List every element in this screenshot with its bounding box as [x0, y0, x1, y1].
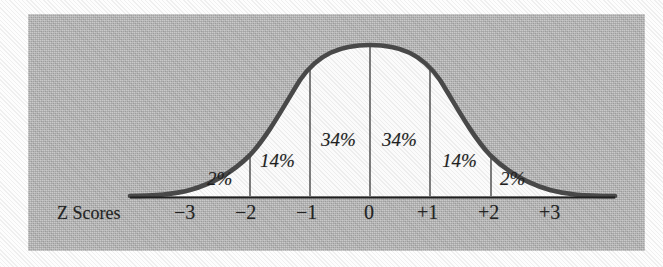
x-tick-label-neg3: −3: [174, 201, 195, 224]
region-label-34pct-left: 34%: [321, 129, 356, 151]
x-tick-label-neg2: −2: [235, 201, 256, 224]
axis-title-z-scores: Z Scores: [57, 203, 120, 224]
x-tick-label-pos1: +1: [417, 201, 438, 224]
curve-fill-area: [130, 45, 615, 196]
x-tick-label-pos3: +3: [539, 201, 560, 224]
region-label-2pct-right: 2%: [500, 168, 525, 190]
region-label-2pct-left: 2%: [207, 168, 232, 190]
region-label-14pct-right: 14%: [442, 150, 477, 172]
x-tick-label-neg1: −1: [296, 201, 317, 224]
x-tick-label-0: 0: [364, 201, 374, 224]
figure-root: 2% 14% 34% 34% 14% 2% Z Scores −3 −2 −1 …: [0, 0, 663, 267]
region-label-34pct-right: 34%: [382, 129, 417, 151]
region-label-14pct-left: 14%: [260, 150, 295, 172]
x-tick-label-pos2: +2: [478, 201, 499, 224]
